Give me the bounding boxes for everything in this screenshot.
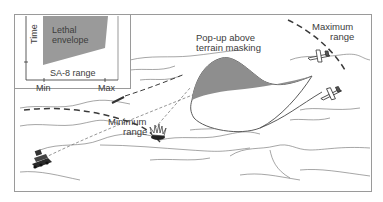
inset-x-axis-title: SA-8 range — [50, 68, 96, 78]
inset-x-tick-min: Min — [36, 83, 51, 93]
inset-y-axis-label: Time — [29, 24, 39, 44]
maximum-range-label-line2: range — [330, 32, 354, 42]
sa8-engagement-diagram: Time Lethal envelope SA-8 range Min Max … — [0, 0, 383, 202]
lethal-envelope-label-line1: Lethal — [52, 25, 77, 35]
inset-x-tick-max: Max — [98, 83, 115, 93]
minimum-range-label-line2: range — [123, 127, 147, 137]
popup-label-line2: terrain masking — [196, 43, 261, 53]
lethal-envelope-label-line2: envelope — [52, 35, 89, 45]
